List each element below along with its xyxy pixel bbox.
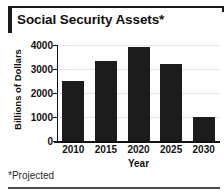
y-axis-tick-mark bbox=[53, 93, 57, 94]
chart-title: Social Security Assets* bbox=[17, 12, 164, 27]
bar-2015 bbox=[95, 61, 117, 141]
title-bar: Social Security Assets* bbox=[8, 6, 224, 34]
y-axis-tick-label: 4000 bbox=[31, 40, 53, 51]
gridline bbox=[57, 45, 220, 46]
x-axis-line bbox=[54, 141, 220, 143]
y-axis-tick-mark bbox=[53, 117, 57, 118]
bar-2020 bbox=[128, 47, 150, 141]
title-right-tick bbox=[222, 6, 224, 12]
x-axis-title: Year bbox=[57, 158, 220, 169]
y-axis-tick-mark bbox=[53, 69, 57, 70]
y-axis-tick-label: 1000 bbox=[31, 112, 53, 123]
plot-area bbox=[57, 45, 220, 141]
bar-2025 bbox=[160, 64, 182, 141]
y-axis-line bbox=[57, 45, 58, 141]
title-left-accent-bar bbox=[8, 6, 12, 33]
x-axis-tick-label: 2025 bbox=[160, 144, 182, 155]
bar-2030 bbox=[193, 117, 215, 141]
x-axis-tick-label: 2020 bbox=[127, 144, 149, 155]
x-axis-tick-label: 2030 bbox=[193, 144, 215, 155]
x-axis-tick-labels: 20102015202020252030 bbox=[57, 144, 220, 158]
y-axis-tick-label: 3000 bbox=[31, 64, 53, 75]
footnote-text: *Projected bbox=[8, 170, 54, 181]
bar-2010 bbox=[62, 81, 84, 141]
x-axis-tick-label: 2015 bbox=[95, 144, 117, 155]
y-axis-tick-label: 2000 bbox=[31, 88, 53, 99]
x-axis-tick-label: 2010 bbox=[62, 144, 84, 155]
y-axis-tick-mark bbox=[53, 45, 57, 46]
y-axis-tick-labels: 01000200030004000 bbox=[20, 36, 53, 142]
title-top-rule bbox=[8, 6, 224, 8]
footnote-rule bbox=[8, 187, 220, 189]
chart-figure-page: Social Security Assets* Billions of Doll… bbox=[0, 0, 224, 192]
y-axis-tick-mark bbox=[53, 141, 57, 142]
bar-chart: Billions of Dollars 01000200030004000 20… bbox=[0, 36, 224, 158]
